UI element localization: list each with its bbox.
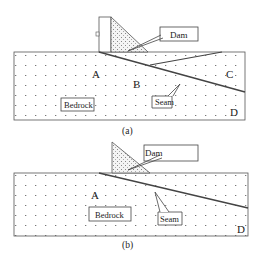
panel-b: Dam Bedrock Seam A D (b) bbox=[14, 142, 248, 251]
caption-a: (a) bbox=[122, 126, 133, 137]
dam-label: Dam bbox=[170, 30, 188, 40]
bedrock-label: Bedrock bbox=[95, 210, 125, 220]
point-d: D bbox=[230, 106, 238, 118]
point-b: B bbox=[133, 78, 140, 90]
diagram-figure: Dam Bedrock Seam A B C D (a) Dam Bedrock… bbox=[0, 0, 262, 259]
caption-b: (b) bbox=[122, 240, 133, 251]
point-a: A bbox=[91, 189, 99, 201]
dam-seam-diagram: Dam Bedrock Seam A B C D (a) Dam Bedrock… bbox=[0, 0, 262, 259]
panel-a: Dam Bedrock Seam A B C D (a) bbox=[14, 17, 245, 137]
point-a: A bbox=[92, 68, 100, 80]
seam-label: Seam bbox=[160, 214, 179, 224]
dam-label: Dam bbox=[145, 148, 163, 158]
point-d: D bbox=[237, 223, 245, 235]
bedrock-block bbox=[14, 173, 248, 236]
seam-label: Seam bbox=[155, 97, 174, 107]
dam-wall bbox=[99, 17, 111, 52]
point-c: C bbox=[226, 68, 233, 80]
dam-body bbox=[111, 17, 148, 52]
bedrock-label: Bedrock bbox=[64, 100, 94, 110]
bedrock-block bbox=[14, 52, 245, 120]
